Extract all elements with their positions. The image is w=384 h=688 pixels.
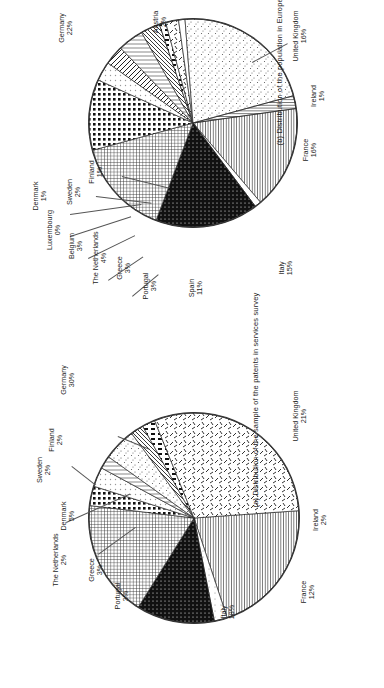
panel-a-slice-label-sweden: Sweden2% — [36, 457, 53, 483]
panel-a-slice-label-greece: Greece3% — [88, 558, 105, 582]
panel-a-slice-label-united-kingdom: United Kingdom21% — [292, 390, 309, 441]
panel-a-slice-label-the-netherlands: The Netherlands2% — [52, 533, 69, 586]
panel-a-caption: (a) Distribution of the sample of the pa… — [251, 293, 260, 508]
panel-b-slice-label-portugal: Portugal3% — [142, 273, 159, 300]
slice-label-value: 0% — [54, 210, 62, 250]
slice-label-value: 18% — [228, 605, 236, 619]
panel-a-slice-label-ireland: Ireland2% — [312, 509, 329, 531]
panel-b-slice-label-ireland: Ireland1% — [310, 85, 327, 107]
panel-b-slice-label-denmark: Denmark1% — [32, 181, 49, 210]
slice-label-value: 3% — [76, 233, 84, 259]
panel-b-slice-label-spain: Spain11% — [188, 279, 205, 297]
slice-label-value: 3% — [122, 583, 130, 610]
panel-a-slice-label-portugal: Portugal3% — [114, 583, 131, 610]
slice-label-value: 3% — [124, 256, 132, 280]
panel-a-slice-label-germany: Germany30% — [60, 365, 77, 395]
slice-label-value: 2% — [74, 179, 82, 205]
slice-label-value: 21% — [300, 390, 308, 441]
slice-label-value: 16% — [310, 139, 318, 161]
slice-label-value: 3% — [150, 273, 158, 300]
panel-b-slice-label-finland: Finland1% — [88, 160, 105, 184]
slice-label-value: 2% — [160, 11, 168, 33]
slice-label-value: 2% — [56, 428, 64, 452]
panel-b-slice-label-greece: Greece3% — [116, 256, 133, 280]
panel-b-slice-label-belgium: Belgium3% — [68, 233, 85, 259]
panel-b-slice-label-austria: Austria2% — [152, 11, 169, 33]
slice-label-value: 16% — [300, 10, 308, 61]
slice-label-value: 5% — [68, 501, 76, 530]
panel-a-slice-label-denmark: Denmark5% — [60, 501, 77, 530]
panel-b-slice-label-italy: Italy15% — [278, 261, 295, 275]
slice-label-value: 1% — [318, 85, 326, 107]
figure-two-pie-charts: United Kingdom16%Ireland1%France16%Italy… — [0, 0, 384, 688]
panel-b-slice-label-france: France16% — [302, 139, 319, 161]
slice-label-value: 3% — [96, 558, 104, 582]
slice-label-value: 30% — [68, 365, 76, 395]
panel-b-slice-label-germany: Germany22% — [58, 13, 75, 43]
slice-label-value: 12% — [308, 581, 316, 603]
panel-b-slice-label-luxembourg: Luxembourg0% — [46, 210, 63, 250]
panel-b-caption: (b) Distribution of the population in Eu… — [275, 0, 284, 146]
slice-label-value: 2% — [320, 509, 328, 531]
slice-label-value: 1% — [40, 181, 48, 210]
slice-label-value: 11% — [196, 279, 204, 297]
panel-a-slice-label-italy: Italy18% — [220, 605, 237, 619]
slice-label-value: 22% — [66, 13, 74, 43]
panel-a-slice-label-finland: Finland2% — [48, 428, 65, 452]
panel-a-slice-label-france: France12% — [300, 581, 317, 603]
slice-label-value: 2% — [44, 457, 52, 483]
panel-b-slice-label-sweden: Sweden2% — [66, 179, 83, 205]
slice-label-value: 1% — [96, 160, 104, 184]
slice-label-value: 4% — [100, 231, 108, 284]
pie-chart-b — [88, 18, 298, 228]
slice-label-value: 15% — [286, 261, 294, 275]
panel-b-slice-label-the-netherlands: The Netherlands4% — [92, 231, 109, 284]
slice-label-value: 2% — [60, 533, 68, 586]
panel-b-slice-label-united-kingdom: United Kingdom16% — [292, 10, 309, 61]
